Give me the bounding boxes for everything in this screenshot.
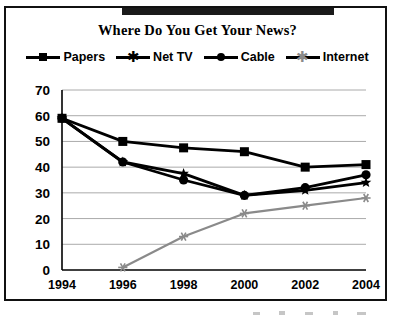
circle-marker-icon (118, 157, 127, 166)
circle-marker-icon (240, 191, 249, 200)
chart-frame: Where Do You Get Your News? Papers ✱ Net… (4, 6, 387, 301)
series-line-internet (123, 198, 366, 267)
square-marker-icon (362, 160, 371, 169)
square-marker-icon (179, 143, 188, 152)
series-line-papers (62, 118, 366, 167)
square-marker-icon (240, 147, 249, 156)
circle-marker-icon (179, 175, 188, 184)
square-marker-icon (301, 163, 310, 172)
circle-marker-icon (57, 114, 66, 123)
circle-marker-icon (301, 183, 310, 192)
circle-marker-icon (361, 170, 370, 179)
square-marker-icon (118, 137, 127, 146)
scan-artifact-bottom (249, 310, 389, 318)
plot-area (6, 8, 389, 303)
